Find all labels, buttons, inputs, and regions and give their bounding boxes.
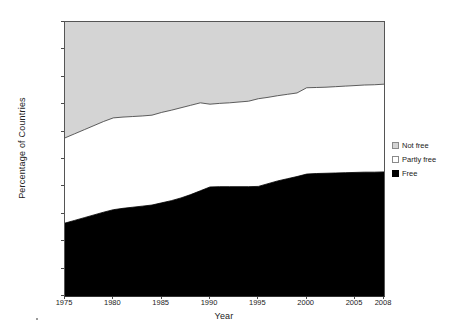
legend-label-free: Free	[402, 169, 417, 178]
x-axis-tick-label: 2008	[375, 298, 392, 307]
x-axis-tick-label: 1985	[152, 298, 169, 307]
legend-label-not-free: Not free	[402, 141, 429, 150]
chart-container: Percentage of Countries Year 0%10%20%30%…	[0, 0, 466, 331]
x-axis-tick-label: 1990	[201, 298, 218, 307]
chart-legend: Not free Partly free Free	[392, 140, 464, 182]
x-axis-tick-label: 1995	[249, 298, 266, 307]
legend-swatch-not-free-icon	[392, 142, 399, 149]
x-axis-tick-label: 1980	[104, 298, 121, 307]
x-axis-tick-label: 2000	[297, 298, 314, 307]
page-artifact-dot	[36, 318, 38, 320]
legend-swatch-free-icon	[392, 170, 399, 177]
legend-item-not-free: Not free	[392, 140, 464, 151]
legend-item-partly-free: Partly free	[392, 154, 464, 165]
legend-item-free: Free	[392, 168, 464, 179]
x-axis-tick-label: 2005	[346, 298, 363, 307]
stacked-area-plot	[65, 22, 384, 296]
legend-swatch-partly-free-icon	[392, 156, 399, 163]
legend-label-partly-free: Partly free	[402, 155, 436, 164]
x-axis-tick-label: 1975	[56, 298, 73, 307]
plot-area	[64, 21, 385, 297]
